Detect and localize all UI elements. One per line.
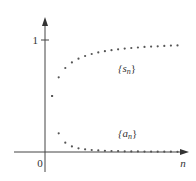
data-point (124, 150, 126, 152)
data-point (157, 151, 159, 153)
data-point (143, 46, 145, 48)
data-point (176, 44, 178, 46)
data-point (58, 76, 60, 78)
x-axis-label: n (180, 157, 186, 169)
data-point (130, 47, 132, 49)
data-point (71, 145, 73, 147)
series-s-dots (51, 44, 179, 97)
data-point (84, 148, 86, 150)
sequence-chart: 1 0 n {sn} {an} (0, 0, 196, 181)
series-s-label: {sn} (118, 62, 136, 76)
series-a-label: {an} (118, 127, 137, 141)
data-point (91, 53, 93, 55)
series-a-dots (51, 95, 179, 153)
data-point (71, 61, 73, 63)
data-point (110, 49, 112, 51)
data-point (117, 48, 119, 50)
data-point (137, 46, 139, 48)
data-point (58, 132, 60, 134)
data-point (170, 45, 172, 47)
data-point (97, 51, 99, 53)
data-point (124, 48, 126, 50)
data-point (143, 151, 145, 153)
data-point (91, 149, 93, 151)
data-point (117, 150, 119, 152)
x-axis-arrow-icon (180, 149, 189, 155)
data-point (84, 55, 86, 57)
data-point (104, 50, 106, 52)
data-point (150, 46, 152, 48)
data-point (170, 151, 172, 153)
data-point (137, 150, 139, 152)
data-point (77, 147, 79, 149)
data-point (51, 95, 53, 97)
y-tick-label-1: 1 (33, 34, 39, 46)
data-point (77, 58, 79, 60)
data-point (150, 151, 152, 153)
data-point (110, 150, 112, 152)
data-point (130, 150, 132, 152)
x-axis (14, 149, 189, 155)
data-point (64, 142, 66, 144)
data-point (64, 67, 66, 69)
data-point (176, 151, 178, 153)
data-point (163, 151, 165, 153)
data-point (157, 45, 159, 47)
data-point (97, 149, 99, 151)
y-axis-arrow-icon (42, 17, 48, 26)
data-point (104, 150, 106, 152)
data-point (163, 45, 165, 47)
origin-label: 0 (37, 157, 43, 169)
